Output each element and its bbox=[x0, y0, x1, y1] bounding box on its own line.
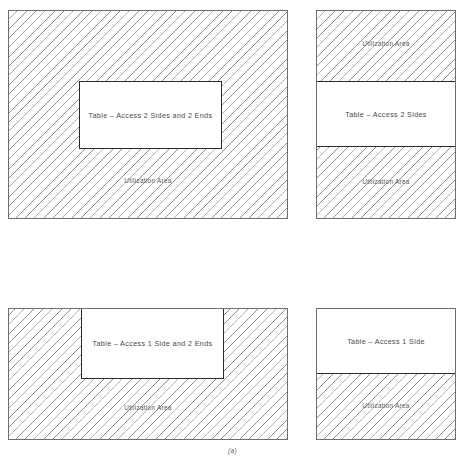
utilization-area-label: Utilization Area bbox=[124, 404, 171, 411]
table-label: Table – Access 2 Sides bbox=[345, 110, 427, 119]
utilization-area-label-upper: Utilization Area bbox=[362, 40, 409, 47]
table-label: Table – Access 1 Side bbox=[347, 337, 425, 346]
panel-access-1-side: Utilization Area Table – Access 1 Side bbox=[316, 308, 456, 440]
utilization-area-label: Utilization Area bbox=[124, 177, 171, 184]
table-block: Table – Access 2 Sides bbox=[316, 81, 456, 147]
panel-access-1-side-2-ends: Utilization Area Table – Access 1 Side a… bbox=[8, 308, 288, 440]
table-block: Table – Access 1 Side and 2 Ends bbox=[81, 308, 224, 379]
utilization-area-label: Utilization Area bbox=[362, 402, 409, 409]
figure-caption: (a) bbox=[0, 447, 465, 454]
utilization-area-label-lower: Utilization Area bbox=[362, 178, 409, 185]
table-block: Table – Access 2 Sides and 2 Ends bbox=[79, 81, 222, 149]
table-label: Table – Access 1 Side and 2 Ends bbox=[93, 339, 213, 348]
panel-access-2-sides-2-ends: Utilization Area Table – Access 2 Sides … bbox=[8, 10, 288, 219]
table-access-diagram: Utilization Area Table – Access 2 Sides … bbox=[0, 0, 465, 470]
table-label: Table – Access 2 Sides and 2 Ends bbox=[89, 111, 213, 120]
table-block: Table – Access 1 Side bbox=[316, 308, 456, 374]
panel-access-2-sides: Utilization Area Utilization Area Table … bbox=[316, 10, 456, 219]
